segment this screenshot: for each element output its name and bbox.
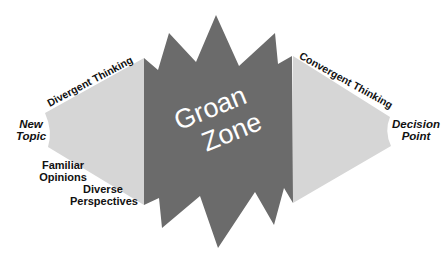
familiar-opinions-label: Familiar Opinions: [34, 160, 92, 183]
decision-point-line2: Point: [388, 130, 444, 142]
new-topic-label: New Topic: [8, 118, 54, 142]
diverse-perspectives-line1: Diverse: [70, 184, 136, 196]
decision-point-line1: Decision: [388, 118, 444, 130]
new-topic-line1: New: [8, 118, 54, 130]
decision-point-label: Decision Point: [388, 118, 444, 142]
diverse-perspectives-label: Diverse Perspectives: [70, 184, 136, 207]
new-topic-line2: Topic: [8, 130, 54, 142]
familiar-opinions-line2: Opinions: [34, 172, 92, 184]
groan-zone-diagram: Divergent Thinking Convergent Thinking N…: [0, 0, 446, 264]
diverse-perspectives-line2: Perspectives: [70, 196, 136, 208]
familiar-opinions-line1: Familiar: [34, 160, 92, 172]
